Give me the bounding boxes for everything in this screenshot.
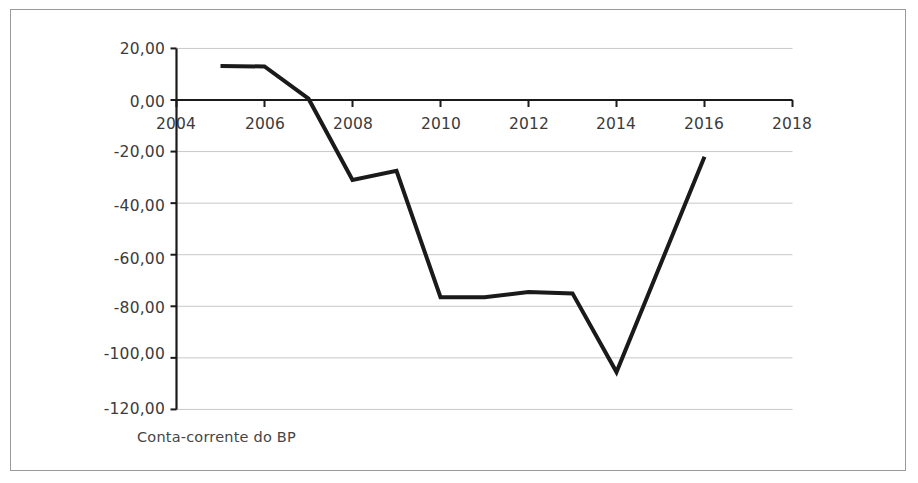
axis-ticks [171,48,793,409]
data-series [221,66,705,372]
series-line-conta-corrente [221,66,705,372]
legend-label-conta-corrente: Conta-corrente do BP [137,429,296,445]
chart-area: 20,00 0,00 -20,00 -40,00 -60,00 -80,00 -… [0,0,918,483]
axis-lines [177,48,793,409]
gridlines [177,48,793,409]
plot-canvas [0,0,918,483]
